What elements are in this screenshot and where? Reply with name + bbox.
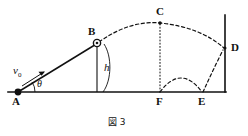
- label-point-f: F: [156, 96, 163, 107]
- point-marker-c: [158, 21, 161, 24]
- bounce-arc-fe: [160, 78, 202, 92]
- trajectory-curve-bcd: [99, 23, 224, 48]
- label-point-d: D: [231, 42, 239, 53]
- label-angle-theta: θ: [37, 79, 42, 89]
- rebound-curve-ed: [203, 50, 223, 92]
- point-marker-d: [224, 47, 227, 50]
- figure-caption: 図 3: [108, 118, 126, 127]
- label-height-h: h: [104, 62, 110, 73]
- label-point-e: E: [198, 96, 205, 107]
- physics-trajectory-diagram: [0, 0, 248, 136]
- label-point-b: B: [88, 26, 95, 37]
- label-point-a: A: [12, 96, 20, 107]
- velocity-subscript: 0: [18, 71, 22, 79]
- figure-3-container: A B C D E F h θ v0 図 3: [0, 0, 248, 136]
- label-point-c: C: [156, 6, 164, 17]
- angle-theta-arc: [32, 82, 35, 92]
- incline-line-ab: [18, 43, 98, 92]
- label-initial-velocity: v0: [13, 65, 21, 79]
- point-marker-b-inner: [96, 42, 99, 45]
